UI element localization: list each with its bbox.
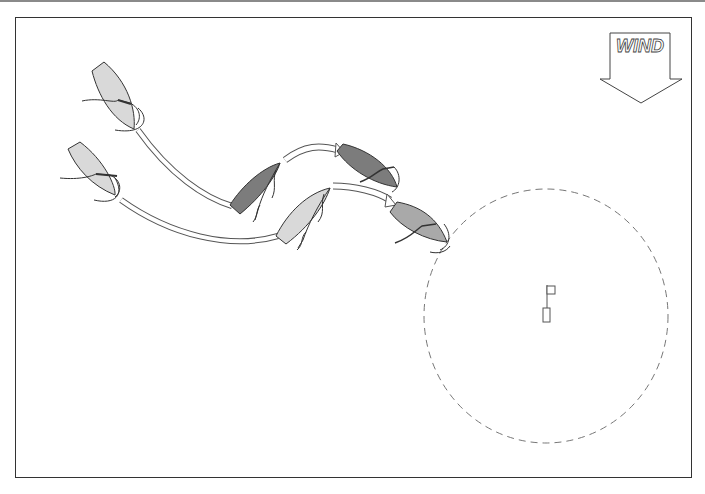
- mark-flag-icon: [543, 285, 555, 322]
- boat-blue-1: [60, 142, 120, 201]
- boat-yellow-1: [82, 62, 144, 131]
- boat-blue-3: [390, 202, 450, 253]
- wind-arrow-icon: WIND: [600, 33, 682, 103]
- boat-yellow-2: [230, 163, 280, 222]
- diagram-canvas: WIND: [0, 0, 705, 494]
- wind-label: WIND: [616, 36, 664, 56]
- boat-blue-2: [276, 188, 330, 250]
